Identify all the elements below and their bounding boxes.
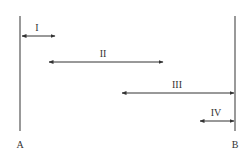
segment-label-1: I (35, 22, 38, 33)
endpoint-label-b: B (232, 139, 239, 150)
segment-label-3: III (172, 79, 182, 90)
segment-label-4: IV (211, 107, 222, 118)
endpoint-label-a: A (16, 139, 24, 150)
segment-label-2: II (100, 48, 107, 59)
segment-diagram: I II III IV A B (0, 0, 250, 161)
